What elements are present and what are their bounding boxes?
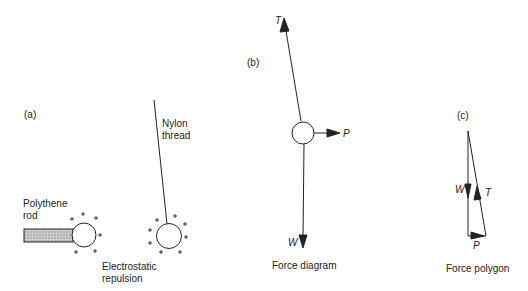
panel-c-tag: (c) xyxy=(457,110,469,122)
label-P: P xyxy=(343,128,350,140)
tension-vector-T xyxy=(285,25,301,121)
rod-label-line1: Polythene xyxy=(23,198,67,210)
polythene-rod xyxy=(24,229,73,242)
force-body xyxy=(292,122,314,144)
rod-label-line2: rod xyxy=(23,210,37,222)
caption-b: Force diagram xyxy=(272,260,336,272)
arrowhead-T xyxy=(280,18,289,32)
weight-vector-W xyxy=(303,144,304,238)
polygon-label-T: T xyxy=(485,187,491,199)
polygon-arrow-T xyxy=(474,186,481,200)
polygon-label-W: W xyxy=(455,184,464,196)
diagram-stage: (a) Nylon thread Polythene rod Electrost… xyxy=(0,0,528,291)
panel-a-tag: (a) xyxy=(24,109,36,121)
suspended-sphere xyxy=(157,224,182,249)
polygon-arrow-P xyxy=(471,232,484,239)
label-W: W xyxy=(288,237,297,249)
label-T: T xyxy=(275,15,281,27)
thread-label-line1: Nylon xyxy=(162,118,188,130)
diagram-graphics xyxy=(0,0,528,291)
arrowhead-W xyxy=(299,235,307,248)
panel-b-tag: (b) xyxy=(247,57,259,69)
polygon-label-P: P xyxy=(473,240,480,252)
arrowhead-P xyxy=(327,129,340,137)
polygon-arrow-W xyxy=(465,184,471,198)
rod-sphere xyxy=(72,223,96,247)
caption-c: Force polygon xyxy=(446,263,509,275)
caption-a-line2: repulsion xyxy=(102,273,143,285)
thread-label-line2: thread xyxy=(162,130,190,142)
caption-a-line1: Electrostatic xyxy=(102,261,156,273)
